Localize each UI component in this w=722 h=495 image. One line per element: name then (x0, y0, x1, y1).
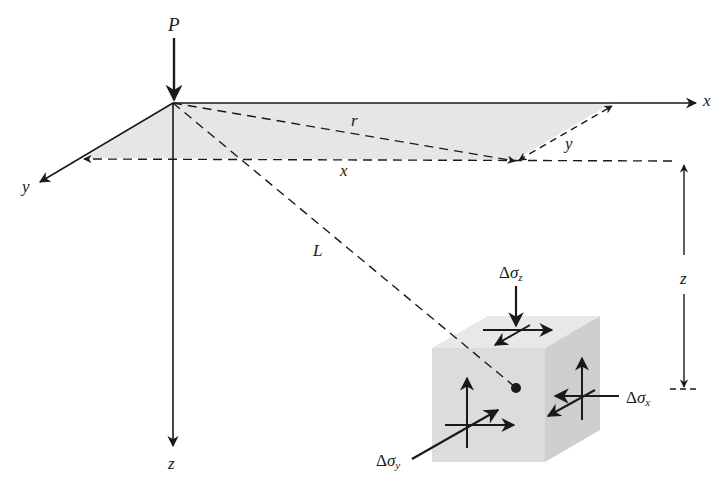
sigma-z-label: Δσz (499, 264, 523, 283)
y-distance-label: y (565, 135, 573, 152)
l-label: L (313, 242, 322, 259)
r-label: r (351, 112, 358, 129)
x-axis-label: x (703, 92, 711, 109)
diagram-graphics (0, 0, 722, 495)
sigma-x-label: Δσx (626, 389, 650, 408)
sigma-y-label: Δσy (376, 452, 400, 471)
x-distance-label: x (340, 162, 348, 179)
stress-point (511, 383, 521, 393)
y-axis-label: y (22, 178, 30, 195)
z-axis-label: z (168, 455, 175, 472)
load-label: P (168, 15, 180, 34)
diagram-canvas: P x y z r x y L z Δσz Δσx Δσy (0, 0, 722, 495)
depth-label: z (680, 270, 687, 287)
